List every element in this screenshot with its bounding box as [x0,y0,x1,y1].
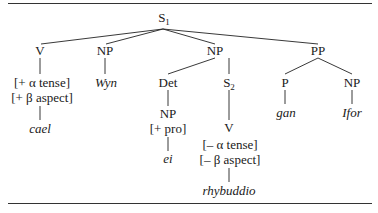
node-pp-np: NP [344,76,361,90]
v2-feature-aspect: [– β aspect] [200,153,261,167]
node-v1: V [35,44,44,58]
node-pp: PP [311,44,325,58]
word-rhybuddio: rhybuddio [202,184,255,198]
word-cael: cael [29,122,51,136]
node-det: Det [159,76,178,90]
v1-feature-aspect: [+ β aspect] [11,91,73,105]
node-s1: S1 [158,11,170,25]
node-s1-subscript: 1 [165,17,170,27]
tree-edges [0,0,378,213]
det-np-feature-pro: [+ pro] [150,122,187,136]
node-s2-subscript: 2 [230,82,235,92]
v2-feature-tense: [– α tense] [202,138,257,152]
word-wyn: Wyn [95,76,117,90]
node-p: P [281,76,288,90]
node-np-wyn: NP [97,44,114,58]
word-ei: ei [163,152,172,166]
node-v2: V [224,121,233,135]
node-np-mid: NP [207,44,224,58]
node-s2: S2 [223,76,235,90]
node-det-np: NP [160,107,177,121]
v1-feature-tense: [+ α tense] [14,76,70,90]
word-ifor: Ifor [342,106,362,120]
word-gan: gan [276,106,296,120]
